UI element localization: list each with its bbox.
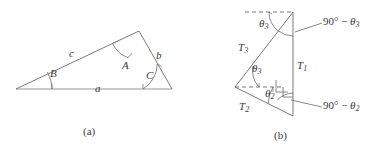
theta3-upper-arc (269, 12, 278, 31)
comp-theta3-prefix: 90° − (323, 15, 350, 27)
t3-subscript: 3 (244, 46, 248, 55)
angle-a-arc (113, 41, 133, 58)
figure-container: c a b B A C (a) θ3 T3 θ3 T1 θ2 T2 90° − … (0, 0, 368, 152)
label-t2: T2 (239, 101, 249, 114)
caption-b: (b) (274, 130, 287, 141)
label-theta3-upper: θ3 (259, 18, 268, 31)
leader-line-comp-theta2 (291, 100, 322, 107)
label-side-a: a (95, 83, 101, 94)
label-comp-theta3: 90° − θ3 (323, 16, 360, 29)
label-theta2: θ2 (265, 88, 274, 101)
label-comp-theta2: 90° − θ2 (323, 100, 360, 113)
caption-a: (a) (83, 126, 95, 137)
theta3-upper-subscript: 3 (264, 22, 268, 31)
comp-theta2-subscript: 2 (356, 104, 360, 113)
comp-theta3-subscript: 3 (356, 20, 360, 29)
label-side-b: b (156, 50, 162, 61)
leader-line-comp-theta3 (295, 23, 322, 32)
label-theta3-lower: θ3 (252, 63, 261, 76)
comp-theta2-arc (278, 93, 294, 100)
triangle-side-c (16, 31, 139, 89)
label-angle-B: B (50, 68, 57, 79)
t2-subscript: 2 (245, 105, 249, 114)
t1-subscript: 1 (303, 64, 307, 73)
label-t3: T3 (238, 42, 248, 55)
theta3-lower-subscript: 3 (257, 67, 261, 76)
theta2-subscript: 2 (270, 92, 274, 101)
label-angle-A: A (122, 60, 129, 71)
label-t1: T1 (297, 60, 307, 73)
comp-theta3-arc (278, 31, 293, 36)
label-side-c: c (69, 48, 74, 59)
label-angle-C: C (146, 70, 153, 81)
comp-theta2-prefix: 90° − (323, 99, 350, 111)
right-angle-marker-upper (276, 80, 288, 92)
